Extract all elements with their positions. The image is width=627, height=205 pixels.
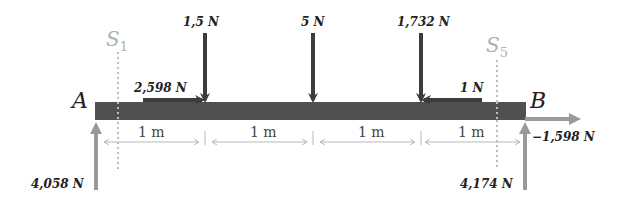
load-2-label: 5 N: [301, 15, 326, 29]
dim-label-4: 1 m: [458, 124, 485, 140]
section-s1: S1: [106, 27, 128, 170]
load-1-label: 1,5 N: [183, 15, 220, 29]
load-3-label: 1,732 N: [397, 15, 451, 29]
section-s5: S5: [486, 33, 508, 170]
axial-left-label: 2,598 N: [133, 81, 188, 95]
beam-diagram: S1 S5 A B 1,5 N 5 N 1,732 N 2,598 N 1 N: [0, 0, 627, 205]
point-b-label: B: [529, 88, 546, 113]
dim-label-2: 1 m: [250, 124, 277, 140]
beam: [95, 102, 526, 120]
section-s5-label: S5: [486, 33, 508, 60]
dim-label-1: 1 m: [138, 124, 165, 140]
section-s1-label: S1: [106, 27, 128, 54]
axial-right-label: 1 N: [460, 81, 485, 95]
dim-label-3: 1 m: [358, 124, 385, 140]
reaction-b-horizontal-label: −1,598 N: [532, 130, 596, 144]
reaction-a-label: 4,058 N: [31, 177, 85, 191]
point-a-label: A: [70, 88, 88, 113]
reaction-b-vertical-label: 4,174 N: [460, 177, 514, 191]
